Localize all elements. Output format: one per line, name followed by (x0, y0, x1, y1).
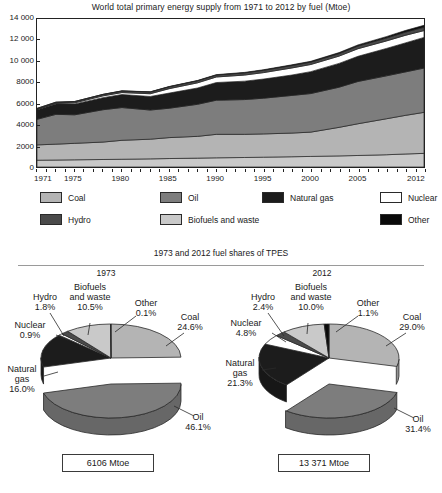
section-divider (18, 265, 424, 266)
pie-label-oil: Oil46.1% (185, 412, 211, 432)
legend-swatch (380, 214, 402, 225)
pie-label-other: Other0.1% (135, 298, 158, 318)
x-tick-label: 2005 (349, 174, 367, 183)
pie-label-nuclear: Nuclear4.8% (230, 318, 261, 338)
x-tick-label: 2000 (301, 174, 319, 183)
x-tick (368, 169, 369, 172)
x-tick-label: 1985 (159, 174, 177, 183)
x-tick (74, 169, 75, 172)
x-tick (387, 169, 388, 172)
legend-item-other: Other (380, 214, 429, 225)
y-tick-label: 8000 (16, 77, 34, 86)
x-tick (397, 169, 398, 172)
pie-charts-section: 1973 and 2012 fuel shares of TPES 1973 2… (0, 248, 442, 493)
pie-chart-1973: Hydro1.8%Biofuelsand waste10.5%Other0.1%… (0, 280, 224, 460)
x-tick (150, 169, 151, 172)
x-tick (254, 169, 255, 172)
energy-supply-figure: World total primary energy supply from 1… (0, 0, 442, 493)
pie-leader-line (268, 313, 284, 336)
x-tick (406, 169, 407, 172)
legend-swatch (160, 192, 182, 203)
x-tick (93, 169, 94, 172)
x-tick-label: 1995 (254, 174, 272, 183)
pie-label-nuclear: Nuclear0.9% (14, 320, 45, 340)
x-tick (216, 169, 217, 172)
legend-label: Other (408, 215, 429, 225)
y-tick (36, 104, 40, 105)
x-tick (311, 169, 312, 172)
pie-slice-coal (111, 324, 181, 358)
legend-swatch (40, 192, 62, 203)
pie-label-other: Other1.1% (357, 298, 380, 318)
pie-label-hydro: Hydro1.8% (33, 292, 57, 312)
legend-label: Oil (188, 193, 198, 203)
y-tick (36, 61, 40, 62)
x-tick (121, 169, 122, 172)
x-tick (169, 169, 170, 172)
x-tick (112, 169, 113, 172)
legend-label: Biofuels and waste (188, 215, 259, 225)
pie-label-oil: Oil31.4% (405, 414, 431, 434)
pie-label-biofuels-and-waste: Biofuelsand waste10.0% (290, 282, 331, 312)
y-tick-label: 14 000 (10, 13, 34, 22)
pie-label-biofuels-and-waste: Biofuelsand waste10.5% (69, 282, 110, 312)
x-tick (245, 169, 246, 172)
area-chart-title: World total primary energy supply from 1… (0, 2, 442, 12)
x-tick-label: 1990 (206, 174, 224, 183)
legend-swatch (160, 214, 182, 225)
pie-year-label-2012: 2012 (262, 268, 382, 278)
x-tick (102, 169, 103, 172)
y-tick (36, 18, 40, 19)
x-tick-label: 1980 (111, 174, 129, 183)
x-tick (55, 169, 56, 172)
legend-label: Nuclear (408, 193, 437, 203)
x-tick (207, 169, 208, 172)
x-tick (292, 169, 293, 172)
y-tick-label: 4000 (16, 120, 34, 129)
pie-label-coal: Coal24.6% (177, 312, 203, 332)
x-tick (140, 169, 141, 172)
x-tick (349, 169, 350, 172)
legend-item-natural-gas: Natural gas (262, 192, 333, 203)
legend-swatch (380, 192, 402, 203)
pie-leader-line (386, 333, 406, 346)
pie-slice-coal (329, 324, 399, 366)
x-tick-label: 1975 (64, 174, 82, 183)
area-chart-x-axis: 197119751980198519901995200020052012 (36, 169, 425, 189)
area-chart-section: World total primary energy supply from 1… (0, 0, 442, 190)
legend-item-biofuels-and-waste: Biofuels and waste (160, 214, 259, 225)
x-tick (159, 169, 160, 172)
y-tick-label: 12 000 (10, 34, 34, 43)
legend-label: Hydro (68, 215, 91, 225)
y-tick (36, 125, 40, 126)
x-tick (83, 169, 84, 172)
x-tick (330, 169, 331, 172)
y-tick (36, 147, 40, 148)
pie-label-coal: Coal29.0% (399, 312, 425, 332)
legend-swatch (262, 192, 284, 203)
pie-leader-line (50, 313, 64, 336)
x-tick-label: 2012 (407, 174, 425, 183)
x-tick (264, 169, 265, 172)
legend-item-coal: Coal (40, 192, 85, 203)
y-tick-label: 0 (30, 163, 34, 172)
x-tick-label: 1971 (34, 174, 52, 183)
pie-label-natural-gas: Naturalgas21.3% (225, 358, 254, 388)
x-tick (416, 169, 417, 172)
x-tick (197, 169, 198, 172)
y-tick (36, 82, 40, 83)
x-tick (340, 169, 341, 172)
x-tick (302, 169, 303, 172)
y-tick-label: 2000 (16, 142, 34, 151)
legend-label: Coal (68, 193, 85, 203)
total-box-2012: 13 371 Mtoe (278, 454, 370, 472)
x-tick (273, 169, 274, 172)
x-tick (188, 169, 189, 172)
x-tick (65, 169, 66, 172)
legend-label: Natural gas (290, 193, 333, 203)
area-chart-y-axis: 0200040006000800010 00012 00014 000 (0, 18, 34, 168)
x-tick (226, 169, 227, 172)
legend-item-nuclear: Nuclear (380, 192, 437, 203)
x-tick (359, 169, 360, 172)
legend-item-hydro: Hydro (40, 214, 91, 225)
